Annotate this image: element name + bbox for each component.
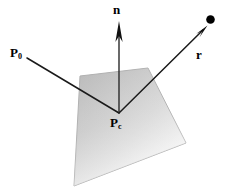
contact-point-label: Pc bbox=[110, 116, 122, 129]
reflection-diagram: n r P0 Pc bbox=[0, 0, 232, 188]
normal-vector-label-text: n bbox=[113, 2, 120, 17]
reflected-vector-label: r bbox=[196, 48, 202, 61]
contact-point-label-text: P bbox=[110, 115, 118, 130]
contact-point-label-subscript: c bbox=[118, 122, 122, 131]
normal-vector-label: n bbox=[113, 3, 120, 16]
surface-plane bbox=[74, 68, 186, 186]
reflected-vector-label-text: r bbox=[196, 47, 202, 62]
source-point-label: P0 bbox=[10, 46, 22, 59]
endpoint-dot bbox=[206, 15, 215, 24]
reflected-vector bbox=[119, 15, 215, 113]
source-point-label-subscript: 0 bbox=[18, 52, 22, 61]
source-point-label-text: P bbox=[10, 45, 18, 60]
surface-plane-shade bbox=[74, 68, 186, 186]
diagram-canvas bbox=[0, 0, 232, 188]
